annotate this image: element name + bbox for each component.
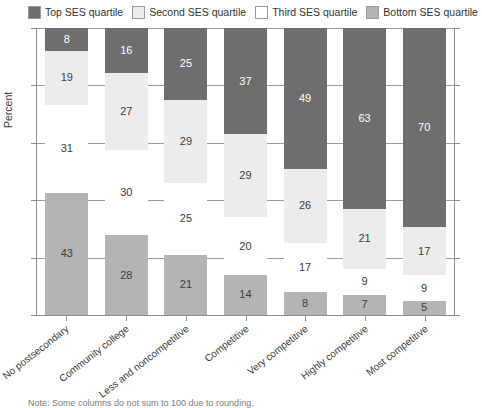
bar-value-label: 17 [299, 262, 311, 273]
legend-item-label: Top SES quartile [45, 6, 123, 19]
bar-segment[interactable]: 7 [343, 295, 386, 315]
legend-swatch-icon [28, 6, 41, 19]
bar-value-label: 8 [302, 298, 308, 309]
bar-value-label: 29 [180, 136, 192, 147]
bar-segment[interactable]: 30 [105, 150, 148, 235]
x-axis-tick [425, 316, 426, 321]
bar-segment[interactable]: 31 [45, 105, 88, 193]
legend-item: Top SES quartile [28, 6, 123, 19]
legend-item: Third SES quartile [255, 6, 357, 19]
bar-segment[interactable]: 25 [164, 28, 207, 100]
bar-value-label: 43 [61, 248, 73, 259]
bar-segment[interactable]: 28 [105, 235, 148, 315]
bar-segment[interactable]: 17 [284, 243, 327, 292]
y-axis-tick [454, 85, 460, 86]
bar-value-label: 63 [358, 113, 370, 124]
bar-value-label: 49 [299, 93, 311, 104]
y-axis-label: Percent [2, 92, 14, 128]
bar-group: 8193143162730282529252137292014492617863… [37, 28, 454, 315]
bar-segment[interactable]: 29 [164, 100, 207, 183]
bar-segment[interactable]: 49 [284, 28, 327, 169]
bar-segment[interactable]: 16 [105, 28, 148, 73]
legend-swatch-icon [132, 6, 145, 19]
bar-value-label: 17 [418, 246, 430, 257]
stacked-bar[interactable]: 37292014 [224, 28, 267, 315]
bar-value-label: 16 [120, 45, 132, 56]
x-axis-label: Competitive [202, 323, 250, 364]
bar-value-label: 25 [180, 58, 192, 69]
bar-segment[interactable]: 21 [164, 255, 207, 315]
bar-segment[interactable]: 26 [284, 169, 327, 244]
bar-segment[interactable]: 37 [224, 28, 267, 134]
x-axis-tick [66, 316, 67, 321]
bar-value-label: 14 [239, 289, 251, 300]
bar-value-label: 37 [239, 76, 251, 87]
chart-legend: Top SES quartileSecond SES quartileThird… [28, 6, 482, 19]
bar-value-label: 8 [64, 34, 70, 45]
bar-segment[interactable]: 9 [343, 269, 386, 295]
x-axis-label: Most competitive [364, 323, 430, 378]
x-axis-tick [365, 316, 366, 321]
legend-item-label: Second SES quartile [149, 6, 246, 19]
plot-area: 8193143162730282529252137292014492617863… [36, 28, 455, 316]
y-axis-tick [454, 258, 460, 259]
bar-value-label: 70 [418, 122, 430, 133]
bar-segment[interactable]: 5 [403, 301, 446, 315]
bar-value-label: 20 [239, 241, 251, 252]
legend-swatch-icon [366, 6, 379, 19]
bar-segment[interactable]: 19 [45, 51, 88, 105]
bar-segment[interactable]: 21 [343, 209, 386, 269]
bar-value-label: 30 [120, 187, 132, 198]
stacked-bar[interactable]: 8193143 [45, 28, 88, 315]
bar-value-label: 26 [299, 200, 311, 211]
stacked-bar[interactable]: 701795 [403, 28, 446, 315]
bar-value-label: 31 [61, 143, 73, 154]
bar-value-label: 5 [421, 302, 427, 313]
x-axis-label: Very competitive [246, 323, 311, 377]
x-axis-tick [305, 316, 306, 321]
bar-segment[interactable]: 14 [224, 275, 267, 315]
bar-value-label: 7 [362, 299, 368, 310]
bar-segment[interactable]: 20 [224, 217, 267, 274]
y-axis-tick [454, 143, 460, 144]
bar-segment[interactable]: 70 [403, 28, 446, 227]
x-axis-tick [246, 316, 247, 321]
y-axis-tick [454, 28, 460, 29]
bar-segment[interactable]: 43 [45, 193, 88, 315]
bar-value-label: 27 [120, 106, 132, 117]
bar-value-label: 9 [421, 283, 427, 294]
legend-item: Second SES quartile [132, 6, 246, 19]
bar-segment[interactable]: 63 [343, 28, 386, 209]
bar-segment[interactable]: 25 [164, 183, 207, 255]
stacked-bar[interactable]: 4926178 [284, 28, 327, 315]
legend-item-label: Bottom SES quartile [383, 6, 478, 19]
y-axis-tick [31, 315, 37, 316]
bar-value-label: 25 [180, 213, 192, 224]
bar-value-label: 28 [120, 270, 132, 281]
bar-value-label: 19 [61, 72, 73, 83]
stacked-bar[interactable]: 632197 [343, 28, 386, 315]
x-axis-tick [126, 316, 127, 321]
legend-swatch-icon [255, 6, 268, 19]
y-axis-tick [454, 200, 460, 201]
bar-segment[interactable]: 29 [224, 134, 267, 217]
legend-item: Bottom SES quartile [366, 6, 478, 19]
bar-value-label: 21 [180, 279, 192, 290]
y-axis-tick [454, 315, 460, 316]
bar-value-label: 21 [358, 233, 370, 244]
x-axis-tick [186, 316, 187, 321]
bar-segment[interactable]: 27 [105, 73, 148, 150]
bar-value-label: 9 [362, 276, 368, 287]
bar-segment[interactable]: 9 [403, 275, 446, 301]
bar-segment[interactable]: 17 [403, 227, 446, 275]
x-axis-label: Highly competitive [299, 323, 370, 382]
chart-note: Note: Some columns do not sum to 100 due… [28, 398, 254, 408]
bar-segment[interactable]: 8 [45, 28, 88, 51]
stacked-bar[interactable]: 25292521 [164, 28, 207, 315]
stacked-bar[interactable]: 16273028 [105, 28, 148, 315]
bar-segment[interactable]: 8 [284, 292, 327, 315]
bar-value-label: 29 [239, 170, 251, 181]
legend-item-label: Third SES quartile [272, 6, 357, 19]
